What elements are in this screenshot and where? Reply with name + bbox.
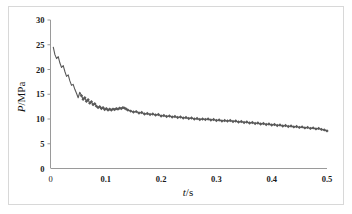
series-marker — [162, 114, 165, 117]
y-tick-label: 5 — [40, 139, 44, 149]
series-marker — [146, 112, 149, 115]
series-marker — [193, 117, 196, 120]
series-marker — [325, 129, 328, 132]
series-marker — [234, 119, 237, 122]
series-marker — [190, 116, 193, 119]
series-marker — [276, 124, 279, 127]
series-marker — [229, 119, 232, 122]
y-tick-label: 20 — [36, 65, 45, 75]
y-tick-label: 25 — [36, 40, 45, 50]
series-marker — [132, 110, 135, 113]
series-marker — [317, 127, 320, 130]
series-marker — [303, 126, 306, 129]
series-marker — [220, 119, 223, 122]
series-marker — [253, 122, 256, 125]
series-marker — [204, 118, 207, 121]
series-marker — [80, 94, 83, 97]
series-marker — [314, 127, 317, 130]
series-marker — [179, 115, 182, 118]
series-marker — [231, 120, 234, 123]
series-marker — [264, 123, 267, 126]
series-marker — [198, 118, 201, 121]
series-marker — [300, 125, 303, 128]
series-marker — [217, 118, 220, 121]
pressure-decay-chart: 051015202530 00.10.20.30.40.5 t/s P/MPa — [0, 0, 352, 214]
series-marker — [168, 114, 171, 117]
series-marker — [212, 118, 215, 121]
y-tick-labels: 051015202530 — [36, 15, 45, 174]
series-marker — [170, 115, 173, 118]
series-marker — [270, 123, 273, 126]
series-marker — [259, 122, 262, 125]
series-marker — [151, 112, 154, 115]
series-marker — [184, 116, 187, 119]
series-marker — [242, 121, 245, 124]
series-marker — [148, 113, 151, 116]
x-tick-label: 0.3 — [211, 174, 222, 184]
series-marker — [256, 121, 259, 124]
y-tick-label: 30 — [36, 15, 45, 25]
series-marker — [267, 122, 270, 125]
series-marker — [278, 123, 281, 126]
series-marker — [323, 128, 326, 131]
series-marker — [289, 124, 292, 127]
series-marker — [281, 124, 284, 127]
series-marker — [295, 125, 298, 128]
series-marker — [240, 120, 243, 123]
series-marker — [173, 115, 176, 118]
y-tick-label: 15 — [36, 89, 45, 99]
x-tick-label: 0.5 — [322, 174, 333, 184]
series-marker — [237, 120, 240, 123]
series-marker — [251, 121, 254, 124]
x-tick-label: 0.4 — [266, 174, 277, 184]
series-marker — [309, 127, 312, 130]
series-marker — [154, 113, 157, 116]
series-marker — [215, 119, 218, 122]
series-marker — [273, 123, 276, 126]
series-marker — [311, 126, 314, 129]
x-tick-label: 0.1 — [100, 174, 111, 184]
series-marker — [165, 115, 168, 118]
x-tick-labels: 00.10.20.30.40.5 — [48, 174, 332, 184]
series-marker — [182, 116, 185, 119]
series-marker — [292, 125, 295, 128]
series-marker — [195, 117, 198, 120]
series-marker — [306, 126, 309, 129]
series-marker — [129, 109, 132, 112]
series-marker — [298, 126, 301, 129]
axes-group — [51, 20, 328, 169]
series-marker — [187, 117, 190, 120]
x-tick-label: 0 — [48, 174, 52, 184]
series-marker — [262, 122, 265, 125]
x-tick-label: 0.2 — [156, 174, 167, 184]
series-marker — [320, 128, 323, 131]
x-axis-title: t/s — [183, 186, 193, 198]
series-marker — [209, 118, 212, 121]
figure-root: 051015202530 00.10.20.30.40.5 t/s P/MPa — [0, 0, 352, 214]
series-marker — [284, 124, 287, 127]
y-tick-label: 10 — [36, 114, 45, 124]
series-marker — [176, 116, 179, 119]
series-marker — [201, 117, 204, 120]
series-marker — [248, 121, 251, 124]
series-marker — [206, 117, 209, 120]
series-marker — [223, 119, 226, 122]
series-marker — [226, 119, 229, 122]
series-markers — [80, 94, 329, 133]
series-marker — [245, 120, 248, 123]
y-axis-title: P/MPa — [15, 82, 27, 114]
series-marker — [287, 125, 290, 128]
y-tick-label: 0 — [40, 164, 44, 174]
